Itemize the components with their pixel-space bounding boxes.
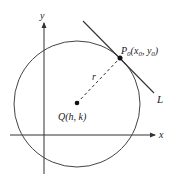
point-label: P0(x0, y0) [120, 45, 159, 58]
tangent-point [118, 56, 123, 61]
tangent-line-label: L [156, 93, 163, 105]
tangent-line-diagram: y x r Q(h, k) L P0(x0, y0) [0, 0, 178, 184]
center-label: Q(h, k) [58, 111, 87, 123]
x-axis-label: x [158, 129, 164, 140]
point-coords-close: ) [154, 45, 159, 57]
radius-line [77, 58, 120, 103]
radius-label: r [92, 71, 96, 82]
point-name: P [120, 45, 127, 56]
y-axis-label: y [39, 10, 45, 21]
center-point [75, 101, 80, 106]
